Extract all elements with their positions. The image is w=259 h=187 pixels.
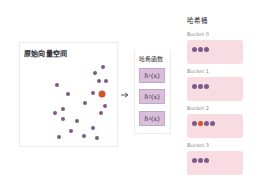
bucket-0 [187, 40, 243, 64]
bucket-point [192, 47, 197, 52]
bucket-point [192, 84, 197, 89]
arrow-right-icon [121, 92, 129, 98]
data-point [104, 79, 108, 83]
data-point [57, 135, 61, 139]
bucket-point [210, 121, 215, 126]
data-point [66, 92, 70, 96]
data-point [101, 65, 105, 69]
bucket-label: Bucket 2 [187, 105, 209, 111]
lsh-diagram: 原始向量空间 哈希函数 h1(x) h2(x) h3(x) 哈希桶 Bucket… [0, 0, 259, 187]
bucket-label: Bucket 0 [187, 31, 209, 37]
bucket-point [192, 158, 197, 163]
bucket-query-point [198, 121, 203, 126]
data-point [97, 79, 101, 83]
bucket-label: Bucket 1 [187, 68, 209, 74]
bucket-point [204, 121, 209, 126]
bucket-point [204, 47, 209, 52]
data-point [103, 104, 107, 108]
vector-space-title: 原始向量空间 [24, 48, 67, 58]
data-point [91, 126, 95, 130]
data-point [55, 83, 59, 87]
bucket-point [204, 84, 209, 89]
data-point [82, 134, 86, 138]
data-point [83, 101, 87, 105]
data-point [69, 129, 73, 133]
hash-function-arg: (x) [151, 93, 160, 101]
bucket-2 [187, 114, 243, 138]
bucket-point [198, 47, 203, 52]
data-point [61, 107, 65, 111]
query-point [99, 91, 106, 98]
hash-function-h1: h1(x) [139, 68, 165, 83]
bucket-point [198, 158, 203, 163]
hash-table-title: 哈希桶 [187, 15, 208, 25]
data-point [75, 119, 79, 123]
data-point [95, 136, 99, 140]
data-point [99, 111, 103, 115]
hash-function-arg: (x) [151, 72, 160, 80]
hash-functions-title: 哈希函数 [139, 54, 163, 63]
data-point [91, 91, 95, 95]
data-point [93, 71, 97, 75]
bucket-point [204, 158, 209, 163]
bucket-3 [187, 151, 243, 175]
bucket-point [192, 121, 197, 126]
data-point [53, 111, 57, 115]
bucket-label: Bucket 3 [187, 142, 209, 148]
hash-function-h3: h3(x) [139, 111, 165, 126]
hash-function-h2: h2(x) [139, 89, 165, 104]
bucket-point [198, 84, 203, 89]
hash-function-arg: (x) [151, 115, 160, 123]
bucket-1 [187, 77, 243, 101]
data-point [61, 117, 65, 121]
